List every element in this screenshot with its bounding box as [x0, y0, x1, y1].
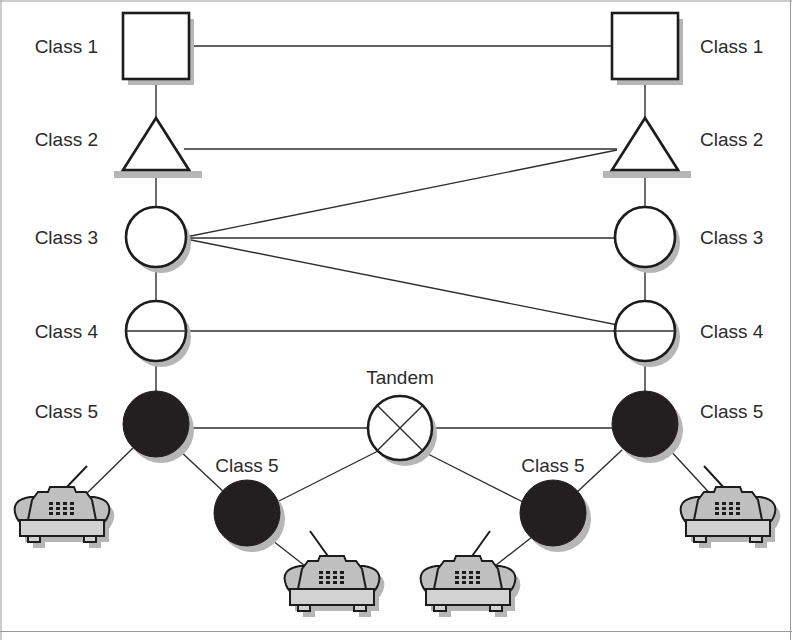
label-class5-mid-left: Class 5: [215, 455, 278, 476]
network-hierarchy-diagram: Class 1 Class 1 Class 2 Class 2 Class 3: [0, 0, 792, 640]
edge-class3-left-to-class2-right: [186, 150, 617, 237]
label-class3-right: Class 3: [700, 227, 763, 248]
label-class5-right: Class 5: [700, 401, 763, 422]
label-class3-left: Class 3: [35, 227, 98, 248]
node-class1-right[interactable]: [612, 13, 683, 85]
node-class4-right[interactable]: [615, 301, 680, 367]
edge-tandem-to-class5-mid-right: [422, 451, 525, 503]
telephone-icon-far-left[interactable]: [15, 466, 115, 548]
node-class5-right[interactable]: [612, 391, 683, 463]
edge-class5-left-to-phone-far-left: [80, 448, 133, 500]
node-class2-right[interactable]: [603, 118, 691, 178]
label-tandem: Tandem: [366, 367, 434, 388]
label-class5-left: Class 5: [35, 401, 98, 422]
label-class1-left: Class 1: [35, 36, 98, 57]
edge-class3-left-to-class4-right: [186, 239, 648, 331]
label-class4-right: Class 4: [700, 321, 764, 342]
node-class1-left[interactable]: [123, 13, 194, 85]
node-class5-mid-right[interactable]: [520, 480, 591, 552]
telephone-icon-mid-left[interactable]: [285, 531, 385, 617]
label-class5-mid-right: Class 5: [521, 455, 584, 476]
node-class4-left[interactable]: [126, 301, 191, 367]
diagram-page: Class 1 Class 1 Class 2 Class 2 Class 3: [0, 0, 792, 640]
label-class4-left: Class 4: [35, 321, 99, 342]
node-class3-left[interactable]: [126, 207, 191, 273]
node-class5-left[interactable]: [123, 391, 194, 463]
label-class2-left: Class 2: [35, 129, 98, 150]
node-class5-mid-left[interactable]: [214, 480, 285, 552]
node-class2-left[interactable]: [114, 118, 202, 178]
label-class1-right: Class 1: [700, 36, 763, 57]
edge-tandem-to-class5-mid-left: [275, 451, 378, 503]
telephone-icon-mid-right[interactable]: [421, 531, 521, 617]
node-tandem[interactable]: [368, 396, 437, 466]
node-class3-right[interactable]: [615, 207, 680, 273]
label-class2-right: Class 2: [700, 129, 763, 150]
